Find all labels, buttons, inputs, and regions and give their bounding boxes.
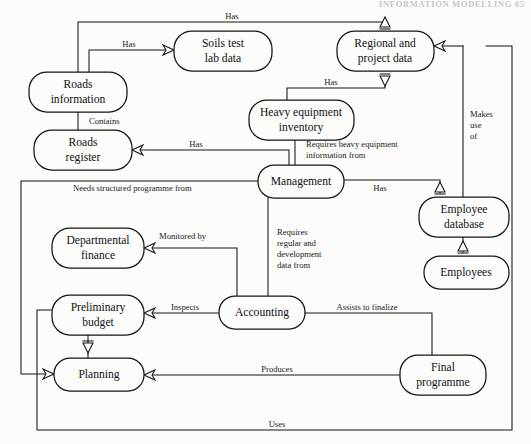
node-label-line2: programme <box>416 376 469 389</box>
node-label-line1: Planning <box>78 368 119 381</box>
node-label-line2: register <box>66 151 101 164</box>
arrowhead-rpd-bottom <box>380 76 390 86</box>
edge-line-ri-has-stl <box>89 50 168 72</box>
node-label-line1: Departmental <box>66 234 129 247</box>
edge-label-fp-uses: Uses <box>269 419 286 429</box>
node-roads-register[interactable]: Roads register <box>34 130 132 170</box>
er-diagram-svg: Roads information Soils test lab data Re… <box>0 0 531 444</box>
edge-line-rr-has-mgmt <box>138 150 289 165</box>
edge-label-rr-has-mgmt: Has <box>189 139 203 149</box>
edge-label-mgmt-req-acc-l1: Requires <box>277 227 308 237</box>
node-soils-test-lab-data[interactable]: Soils test lab data <box>174 31 272 71</box>
node-accounting[interactable]: Accounting <box>219 296 305 329</box>
edge-label-mgmt-req-acc-l2: regular and <box>277 238 317 248</box>
node-roads-information[interactable]: Roads information <box>29 72 127 112</box>
node-departmental-finance[interactable]: Departmental finance <box>52 228 144 268</box>
node-label-line1: Roads <box>64 78 93 91</box>
node-label-line1: Preliminary <box>71 301 126 314</box>
node-regional-and-project-data[interactable]: Regional and project data <box>337 31 434 71</box>
edge-label-he-has-rpd: Has <box>324 77 338 87</box>
edge-label-ri-contains: Contains <box>89 116 120 126</box>
edge-label-makes-use-of-l1: Makes <box>470 109 494 119</box>
node-employees[interactable]: Employees <box>424 256 509 289</box>
edge-label-acc-assists: Assists to finalize <box>336 302 397 312</box>
arrowhead-employee-db-top <box>435 182 445 192</box>
node-label-line2: database <box>444 218 484 231</box>
node-label-line2: lab data <box>205 52 241 65</box>
node-label-line1: Soils test <box>202 37 245 50</box>
edge-label-mgmt-needs-planning: Needs structured programme from <box>73 183 192 193</box>
node-label-line1: Employees <box>440 266 492 279</box>
edge-label-mgmt-req-acc-l4: data from <box>277 260 310 270</box>
edge-label-makes-use-of-l2: use <box>470 120 482 130</box>
edge-label-pb-inspects: Inspects <box>171 302 200 312</box>
edge-line-mgmt-needs-planning <box>21 181 258 374</box>
node-label-line2: project data <box>358 52 412 65</box>
node-label-line1: Roads <box>69 136 98 149</box>
node-planning[interactable]: Planning <box>54 358 144 391</box>
node-label-line2: inventory <box>279 121 324 134</box>
arrowhead-planning-top <box>83 343 93 353</box>
edge-label-pl-produces: Produces <box>261 364 293 374</box>
edge-label-mgmt-req-acc-l3: development <box>277 249 322 259</box>
edge-label-mgmt-has-ed: Has <box>373 183 387 193</box>
arrowhead-employees-top <box>458 241 468 251</box>
node-preliminary-budget[interactable]: Preliminary budget <box>52 295 144 335</box>
node-label-line1: Heavy equipment <box>260 106 343 119</box>
node-label-line1: Final <box>431 361 455 374</box>
edge-line-mgmt-has-ed <box>344 180 440 193</box>
node-final-programme[interactable]: Final programme <box>400 355 486 395</box>
edge-label-df-monitored-by: Monitored by <box>159 231 207 241</box>
node-label-line1: Management <box>271 175 332 188</box>
entity-nodes: Roads information Soils test lab data Re… <box>29 31 509 395</box>
edge-label-mgmt-req-he-l2: information from <box>306 150 366 160</box>
node-label-line1: Employee <box>440 203 487 216</box>
node-employee-database[interactable]: Employee database <box>419 197 509 237</box>
edge-label-ri-has-stl: Has <box>122 39 136 49</box>
node-management[interactable]: Management <box>258 165 344 198</box>
node-label-line2: information <box>51 93 106 106</box>
edge-label-ri-has-rpd: Has <box>225 11 239 21</box>
node-heavy-equipment-inventory[interactable]: Heavy equipment inventory <box>249 100 354 140</box>
node-label-line2: budget <box>82 316 114 329</box>
edge-line-df-monitored-by <box>150 248 237 296</box>
edge-label-makes-use-of-l3: of <box>470 131 477 141</box>
edge-line-acc-assists-fp <box>305 313 432 355</box>
diagram-canvas: INFORMATION MODELLING 65 <box>0 0 531 444</box>
node-label-line1: Accounting <box>235 306 289 319</box>
edge-label-mgmt-req-he-l1: Requires heavy equipment <box>306 139 398 149</box>
node-label-line2: finance <box>81 249 115 262</box>
node-label-line1: Regional and <box>354 37 416 50</box>
